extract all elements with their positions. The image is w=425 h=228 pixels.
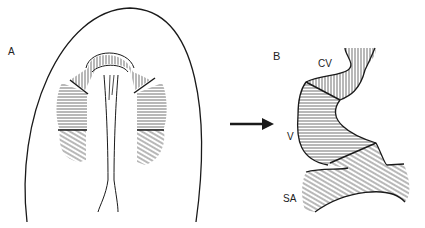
label-cv: CV — [318, 58, 332, 69]
panel-a — [25, 8, 201, 222]
label-v: V — [287, 131, 294, 142]
embryo-heart-diagram: A B CV V SA — [0, 0, 425, 228]
panel-b — [298, 48, 410, 212]
arrow-icon — [230, 118, 274, 130]
panel-b-label: B — [273, 50, 280, 62]
embryo-outline — [25, 8, 201, 222]
label-sa: SA — [283, 193, 297, 204]
panel-a-label: A — [8, 46, 15, 57]
